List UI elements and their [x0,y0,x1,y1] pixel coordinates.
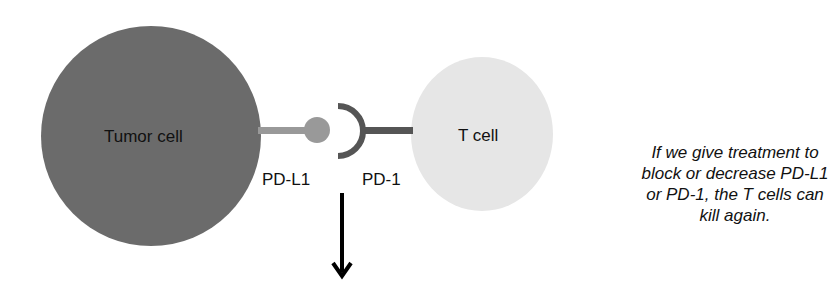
pd-l1-ball [304,117,330,143]
pd-l1-label: PD-L1 [262,170,310,190]
pd-1-receptor-arc [338,106,363,156]
pd-l1-stalk [258,127,308,134]
tumor-cell-label: Tumor cell [104,127,183,147]
treatment-note: If we give treatment to block or decreas… [640,142,830,226]
pd-1-label: PD-1 [362,170,401,190]
t-cell-label: T cell [458,126,498,146]
pd-1-stalk [360,127,413,134]
